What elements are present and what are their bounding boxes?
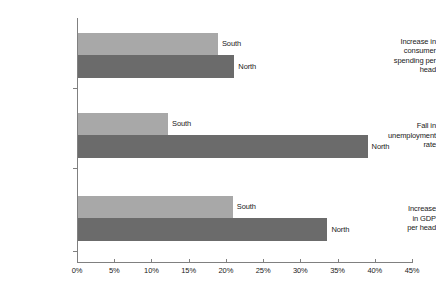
value-axis-tick: [412, 259, 413, 263]
value-axis-line: [77, 262, 413, 263]
bar-south: [78, 113, 168, 135]
plot-area: Increase inconsumerspending perheadFall …: [0, 0, 436, 297]
value-axis-tick-label: 0%: [72, 266, 83, 275]
bar-label-south: South: [222, 39, 241, 48]
value-axis-tick: [263, 259, 264, 263]
value-axis-tick-label: 30%: [293, 266, 308, 275]
value-axis-tick: [189, 259, 190, 263]
value-axis-tick: [114, 259, 115, 263]
value-axis-tick-label: 15%: [181, 266, 196, 275]
bar-chart: Increase inconsumerspending perheadFall …: [0, 0, 436, 297]
bar-label-north: North: [372, 142, 390, 151]
category-label-line: head: [368, 65, 436, 75]
value-axis-tick: [151, 259, 152, 263]
bar-north: [78, 135, 368, 158]
bar-south: [78, 33, 218, 55]
value-axis-tick-label: 35%: [330, 266, 345, 275]
bar-south: [78, 196, 233, 218]
category-label-line: Increase: [368, 204, 436, 214]
category-label: Increasein GDPper head: [368, 204, 436, 233]
bar-north: [78, 218, 327, 241]
value-axis-tick-label: 5%: [109, 266, 120, 275]
category-label: Increase inconsumerspending perhead: [368, 37, 436, 75]
category-label-line: spending per: [368, 56, 436, 66]
value-axis-tick: [226, 259, 227, 263]
value-axis-tick-label: 20%: [219, 266, 234, 275]
category-label-line: unemployment: [368, 131, 436, 141]
category-axis-tick: [73, 168, 78, 169]
value-axis-tick: [77, 259, 78, 263]
value-axis-tick-label: 25%: [256, 266, 271, 275]
bar-label-south: South: [172, 119, 191, 128]
value-axis-tick: [375, 259, 376, 263]
value-axis-tick: [300, 259, 301, 263]
category-axis-tick: [73, 251, 78, 252]
category-label-line: Fall in: [368, 121, 436, 131]
category-label-line: per head: [368, 223, 436, 233]
bar-label-north: North: [238, 62, 256, 71]
category-axis-tick: [73, 88, 78, 89]
value-axis-tick-label: 40%: [367, 266, 382, 275]
category-label-line: in GDP: [368, 214, 436, 224]
value-axis-tick: [338, 259, 339, 263]
bar-label-north: North: [331, 225, 349, 234]
category-label-line: consumer: [368, 46, 436, 56]
value-axis-tick-label: 10%: [144, 266, 159, 275]
value-axis-tick-label: 45%: [405, 266, 420, 275]
bar-north: [78, 55, 234, 78]
bar-label-south: South: [237, 202, 256, 211]
category-label-line: Increase in: [368, 37, 436, 47]
